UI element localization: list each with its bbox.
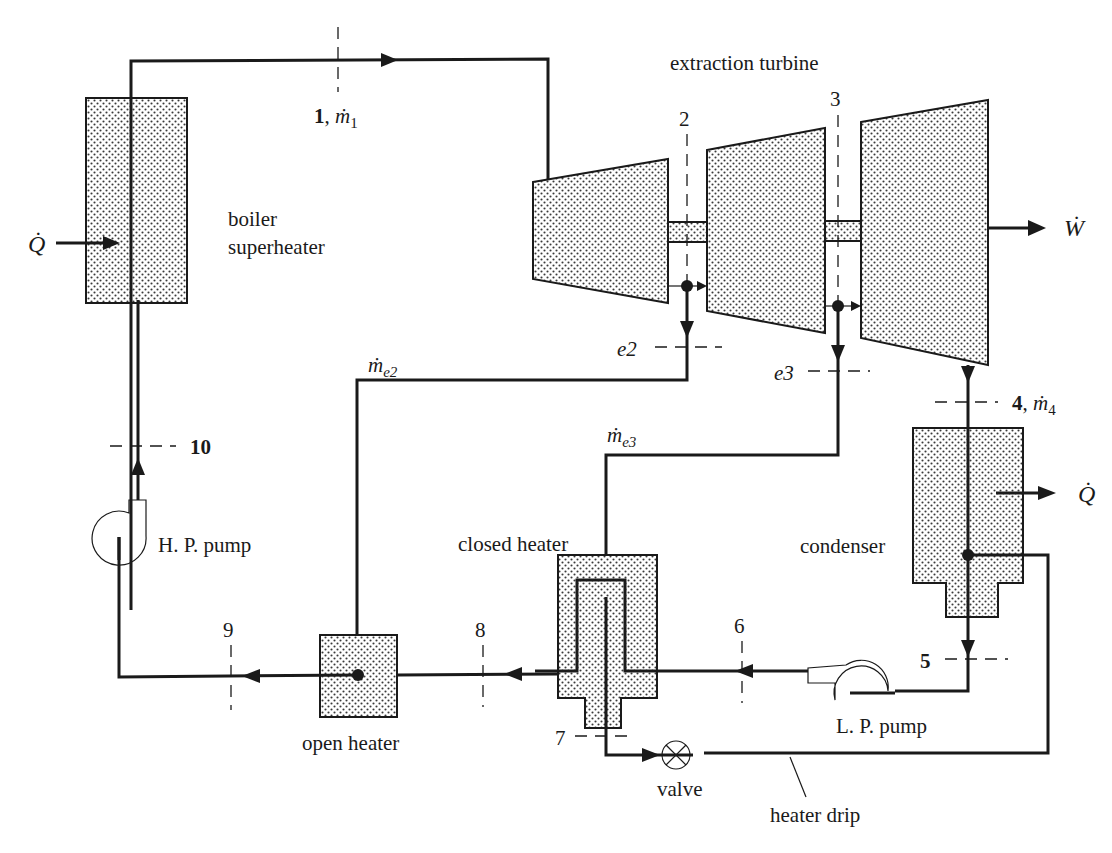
feedwater-line-10	[131, 300, 145, 500]
state-6-label: 6	[734, 614, 745, 638]
heater-drip-leader	[790, 757, 806, 797]
hp-pump	[92, 500, 146, 565]
power-cycle-diagram: Q̇ boiler superheater 1, ṁ1 extraction t…	[0, 0, 1112, 853]
turbine-shaft-2	[825, 221, 861, 241]
steam-line-1	[131, 53, 548, 610]
heater-drip-label: heater drip	[770, 803, 860, 827]
condenser-label: condenser	[800, 534, 885, 558]
flow-me2-label: ṁe2	[368, 353, 398, 380]
extraction-turbine	[533, 100, 988, 365]
state-e3-label: e3	[774, 361, 794, 385]
hp-pump-label: H. P. pump	[158, 533, 251, 557]
flow-me3-label: ṁe3	[607, 423, 636, 450]
work-output-arrow	[988, 220, 1046, 236]
state-2-label: 2	[679, 107, 690, 131]
turbine-stage-hp	[533, 159, 668, 303]
lp-pump-label: L. P. pump	[836, 714, 927, 738]
state-e2-label: e2	[617, 337, 637, 361]
closed-heater-label: closed heater	[458, 532, 568, 556]
lp-pump	[808, 660, 895, 700]
state-5-label: 5	[920, 649, 931, 673]
open-heater-label: open heater	[302, 731, 399, 755]
state-3-label: 3	[830, 87, 841, 111]
work-symbol: Ẇ	[1064, 215, 1086, 241]
state-10-label: 10	[190, 435, 211, 459]
turbine-label: extraction turbine	[670, 51, 819, 75]
state-7-label: 7	[555, 726, 566, 750]
boiler-label: boiler	[228, 207, 277, 231]
valve-label: valve	[657, 777, 702, 801]
superheater-label: superheater	[228, 235, 325, 259]
state-4-label: 4, ṁ4	[1012, 391, 1056, 418]
turbine-stage-ip	[707, 128, 825, 333]
state-8-label: 8	[475, 618, 486, 642]
turbine-stage-lp	[861, 100, 988, 365]
state-1-label: 1, ṁ1	[314, 104, 358, 131]
heat-in-symbol: Q̇	[28, 231, 45, 257]
state-9-label: 9	[223, 618, 234, 642]
heat-out-symbol: Q̇	[1078, 481, 1095, 507]
closed-heater	[535, 555, 693, 755]
feedwater-line-8	[398, 667, 558, 681]
boiler-superheater	[86, 98, 187, 303]
